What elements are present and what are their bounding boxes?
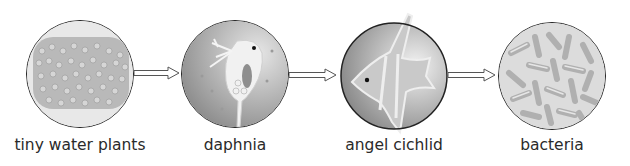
tiny-water-plants-circle (26, 20, 134, 128)
label-bacteria: bacteria (472, 136, 630, 154)
right-arrow-icon (134, 66, 180, 80)
angelfish-icon (340, 10, 448, 140)
label-angel-cichlid: angel cichlid (314, 136, 474, 154)
bacteria-circle (498, 22, 606, 130)
right-arrow-icon (289, 68, 337, 82)
bacteria-icon (499, 23, 606, 130)
angel-cichlid-circle (340, 22, 448, 130)
algae-cells-icon (27, 21, 134, 128)
daphnia-icon (182, 21, 289, 128)
daphnia-circle (181, 20, 289, 128)
label-tiny-water-plants: tiny water plants (0, 136, 160, 154)
arrow-plants-to-daphnia (134, 66, 180, 80)
arrow-daphnia-to-cichlid (289, 68, 337, 82)
arrow-cichlid-to-bacteria (448, 68, 496, 82)
label-daphnia: daphnia (155, 136, 315, 154)
right-arrow-icon (448, 68, 496, 82)
